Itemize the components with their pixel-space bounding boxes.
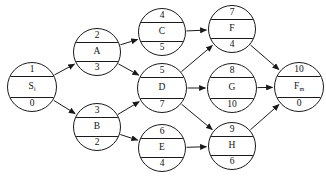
node-2[interactable]: 2A3 <box>73 28 121 76</box>
node-number: 8 <box>208 64 256 77</box>
node-activity-label: C <box>139 22 185 42</box>
activity-network-diagram: 1Si02A33B24C55D76E47F48G109H610Fm0 <box>0 0 326 180</box>
activity-label-subscript: m <box>300 86 305 92</box>
activity-label-text: D <box>159 83 166 93</box>
node-activity-label: Si <box>8 76 56 97</box>
node-10[interactable]: 10Fm0 <box>274 62 324 112</box>
node-activity-label: F <box>209 19 255 39</box>
node-activity-label: H <box>209 136 255 156</box>
node-number: 9 <box>209 123 255 136</box>
node-duration: 4 <box>209 39 255 52</box>
activity-label-text: S <box>29 82 34 92</box>
node-activity-label: E <box>139 138 185 158</box>
node-activity-label: A <box>74 42 120 62</box>
node-number: 3 <box>74 104 120 117</box>
node-duration: 10 <box>208 99 256 112</box>
node-duration: 6 <box>209 156 255 169</box>
node-duration: 0 <box>8 98 56 111</box>
node-6[interactable]: 6E4 <box>138 124 186 172</box>
node-number: 2 <box>74 29 120 42</box>
activity-label-text: H <box>229 141 236 151</box>
node-duration: 0 <box>275 98 323 111</box>
node-activity-label: G <box>208 77 256 98</box>
node-8[interactable]: 8G10 <box>207 63 257 113</box>
node-number: 7 <box>209 6 255 19</box>
activity-label-text: F <box>294 82 299 92</box>
node-duration: 2 <box>74 137 120 150</box>
activity-label-text: A <box>94 47 101 57</box>
node-5[interactable]: 5D7 <box>137 63 187 113</box>
node-layer: 1Si02A33B24C55D76E47F48G109H610Fm0 <box>0 0 326 180</box>
activity-label-text: E <box>159 143 165 153</box>
node-number: 1 <box>8 63 56 76</box>
node-9[interactable]: 9H6 <box>208 122 256 170</box>
node-7[interactable]: 7F4 <box>208 5 256 53</box>
activity-label-text: C <box>159 27 165 37</box>
activity-label-subscript: i <box>34 86 36 92</box>
node-number: 4 <box>139 9 185 22</box>
node-3[interactable]: 3B2 <box>73 103 121 151</box>
node-duration: 5 <box>139 42 185 55</box>
node-duration: 4 <box>139 158 185 171</box>
node-number: 6 <box>139 125 185 138</box>
activity-label-text: F <box>229 24 234 34</box>
node-number: 5 <box>138 64 186 77</box>
node-duration: 7 <box>138 99 186 112</box>
node-activity-label: Fm <box>275 76 323 97</box>
node-activity-label: D <box>138 77 186 98</box>
node-duration: 3 <box>74 62 120 75</box>
node-activity-label: B <box>74 117 120 137</box>
node-4[interactable]: 4C5 <box>138 8 186 56</box>
node-number: 10 <box>275 63 323 76</box>
activity-label-text: G <box>229 83 236 93</box>
activity-label-text: B <box>94 122 100 132</box>
node-1[interactable]: 1Si0 <box>7 62 57 112</box>
